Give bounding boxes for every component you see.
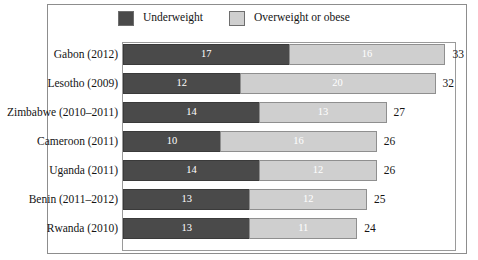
bar-value-overweight-or-obese: 20	[332, 78, 343, 89]
bar-row: Benin (2011–2012)131225	[0, 189, 478, 218]
bar-value-underweight: 17	[201, 49, 212, 60]
stacked-bar: 1220	[123, 73, 436, 94]
bar-segment-overweight-or-obese: 16	[289, 44, 446, 65]
bar-segment-overweight-or-obese: 16	[220, 131, 377, 152]
bar-total-label: 27	[394, 102, 406, 123]
legend-swatch-underweight	[118, 11, 134, 26]
category-label: Uganda (2011)	[0, 160, 118, 181]
bar-segment-underweight: 13	[123, 189, 250, 210]
bar-row: Gabon (2012)171633	[0, 44, 478, 73]
bar-segment-overweight-or-obese: 12	[259, 160, 377, 181]
bar-value-underweight: 10	[167, 136, 178, 147]
bar-value-underweight: 14	[186, 107, 197, 118]
bar-total-label: 24	[364, 218, 376, 239]
bar-value-overweight-or-obese: 12	[303, 194, 314, 205]
chart-figure: Underweight Overweight or obese Gabon (2…	[0, 0, 478, 260]
category-label: Lesotho (2009)	[0, 73, 118, 94]
bar-value-overweight-or-obese: 16	[362, 49, 373, 60]
category-label: Rwanda (2010)	[0, 218, 118, 239]
bar-segment-underweight: 12	[123, 73, 241, 94]
bar-segment-underweight: 14	[123, 160, 260, 181]
stacked-bar: 1311	[123, 218, 357, 239]
bar-row: Cameroon (2011)101626	[0, 131, 478, 160]
legend-label-underweight: Underweight	[143, 12, 203, 24]
legend-swatch-overweight-or-obese	[229, 11, 245, 26]
stacked-bar: 1312	[123, 189, 367, 210]
bar-segment-overweight-or-obese: 11	[249, 218, 357, 239]
bar-value-underweight: 13	[181, 223, 192, 234]
category-label: Gabon (2012)	[0, 44, 118, 65]
bar-value-overweight-or-obese: 13	[318, 107, 329, 118]
bar-segment-underweight: 14	[123, 102, 260, 123]
category-label: Zimbabwe (2010–2011)	[0, 102, 118, 123]
chart-legend: Underweight Overweight or obese	[118, 9, 350, 27]
bar-rows: Gabon (2012)171633Lesotho (2009)122032Zi…	[0, 44, 478, 250]
bar-segment-overweight-or-obese: 12	[249, 189, 367, 210]
bar-segment-underweight: 10	[123, 131, 221, 152]
bar-row: Lesotho (2009)122032	[0, 73, 478, 102]
stacked-bar: 1716	[123, 44, 445, 65]
legend-label-overweight-or-obese: Overweight or obese	[254, 12, 350, 24]
bar-segment-underweight: 13	[123, 218, 250, 239]
category-label: Benin (2011–2012)	[0, 189, 118, 210]
bar-total-label: 32	[443, 73, 455, 94]
bar-segment-underweight: 17	[123, 44, 290, 65]
legend-item-overweight-or-obese: Overweight or obese	[229, 11, 350, 26]
bar-segment-overweight-or-obese: 20	[240, 73, 436, 94]
stacked-bar: 1412	[123, 160, 377, 181]
stacked-bar: 1413	[123, 102, 387, 123]
bar-value-overweight-or-obese: 12	[313, 165, 324, 176]
bar-row: Zimbabwe (2010–2011)141327	[0, 102, 478, 131]
bar-value-overweight-or-obese: 16	[293, 136, 304, 147]
category-label: Cameroon (2011)	[0, 131, 118, 152]
bar-value-overweight-or-obese: 11	[298, 223, 308, 234]
bar-total-label: 25	[374, 189, 386, 210]
bar-total-label: 26	[384, 131, 396, 152]
bar-total-label: 26	[384, 160, 396, 181]
bar-row: Rwanda (2010)131124	[0, 218, 478, 247]
legend-item-underweight: Underweight	[118, 11, 203, 26]
bar-segment-overweight-or-obese: 13	[259, 102, 386, 123]
bar-value-underweight: 14	[186, 165, 197, 176]
bar-row: Uganda (2011)141226	[0, 160, 478, 189]
stacked-bar: 1016	[123, 131, 377, 152]
bar-total-label: 33	[452, 44, 464, 65]
bar-value-underweight: 13	[181, 194, 192, 205]
bar-value-underweight: 12	[177, 78, 188, 89]
